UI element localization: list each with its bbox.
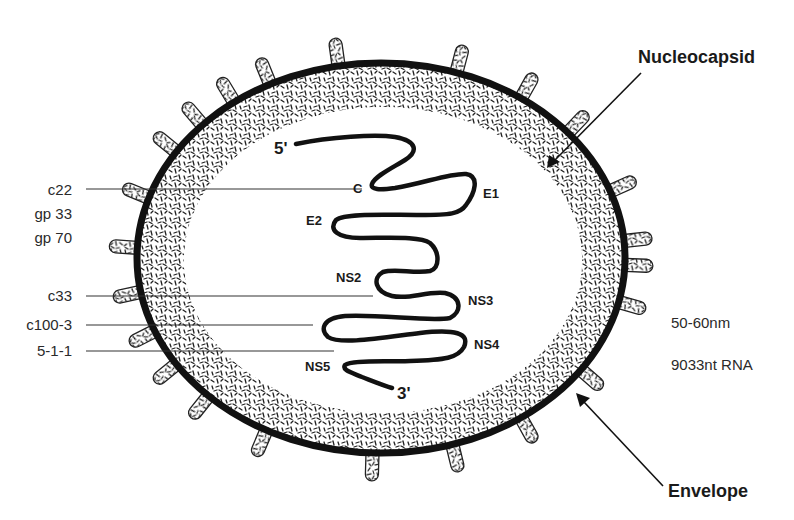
nucleocapsid-arrow-line (555, 73, 641, 160)
label-c100-3: c100-3 (26, 317, 72, 332)
envelope-arrow-line (584, 402, 663, 486)
virion-size-label: 50-60nm (671, 315, 730, 330)
nucleocapsid-callout-label: Nucleocapsid (638, 48, 755, 66)
virion-diagram (0, 0, 794, 520)
envelope-arrowhead (576, 393, 590, 407)
genome-length-label: 9033nt RNA (671, 357, 753, 372)
rna-5-prime-label: 5' (274, 140, 288, 157)
label-5-1-1: 5-1-1 (37, 343, 72, 358)
region-label-C: C (353, 182, 362, 195)
label-c22: c22 (48, 182, 72, 197)
region-label-E2: E2 (306, 214, 322, 227)
region-label-NS3: NS3 (468, 294, 493, 307)
label-gp70: gp 70 (34, 230, 72, 245)
label-c33: c33 (48, 288, 72, 303)
nucleocapsid-inner-edge (184, 107, 582, 413)
region-label-NS4: NS4 (474, 338, 499, 351)
rna-3-prime-label: 3' (397, 385, 411, 402)
region-label-E1: E1 (483, 187, 499, 200)
envelope-callout-label: Envelope (668, 482, 748, 500)
region-label-NS5: NS5 (305, 360, 330, 373)
region-label-NS2: NS2 (336, 271, 361, 284)
label-gp33: gp 33 (34, 206, 72, 221)
